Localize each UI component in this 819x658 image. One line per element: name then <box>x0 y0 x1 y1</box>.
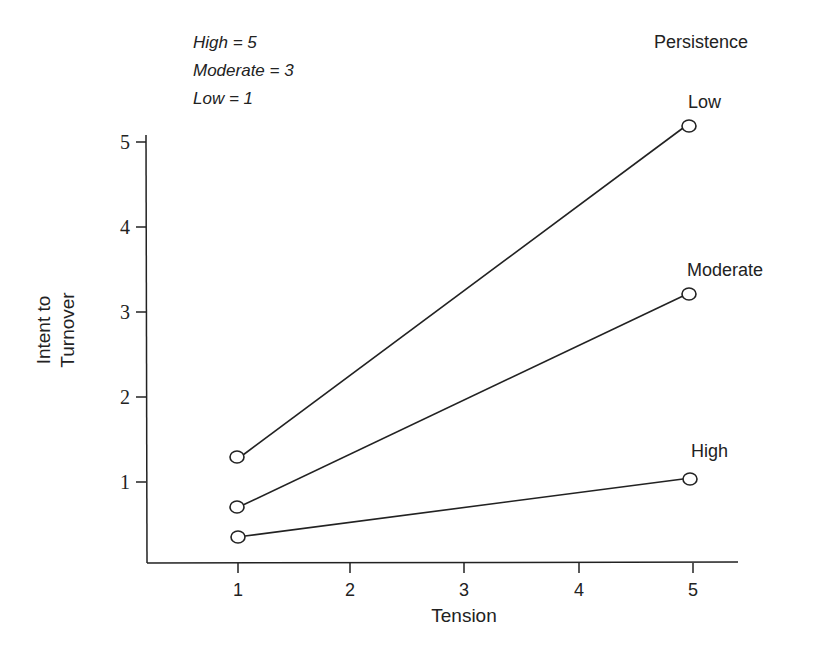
y-tick-label-5: 5 <box>120 131 130 153</box>
x-tick-label-5: 5 <box>688 580 698 600</box>
x-tick-label-1: 1 <box>233 580 243 600</box>
key-moderate: Moderate = 3 <box>193 61 294 80</box>
legend-title: Persistence <box>654 32 748 52</box>
y-tick-label-4: 4 <box>120 216 130 238</box>
x-tick-label-2: 2 <box>345 580 355 600</box>
x-axis-label: Tension <box>431 605 497 626</box>
key-high: High = 5 <box>193 33 257 52</box>
marker-moderate-5 <box>682 288 696 300</box>
x-tick-label-4: 4 <box>574 580 584 600</box>
y-tick-label-1: 1 <box>120 471 130 493</box>
y-axis-label-line1: Intent to <box>33 296 54 365</box>
x-axis <box>147 562 738 563</box>
series-line-low <box>243 128 683 455</box>
marker-low-1 <box>230 451 244 463</box>
key-low: Low = 1 <box>193 89 253 108</box>
series-label-moderate: Moderate <box>687 260 763 280</box>
marker-high-5 <box>683 473 697 485</box>
chart: High = 5 Moderate = 3 Low = 1 Persistenc… <box>0 0 819 658</box>
x-tick-label-3: 3 <box>459 580 469 600</box>
series-label-low: Low <box>688 92 722 112</box>
y-axis-label-line2: Turnover <box>57 292 78 368</box>
series-label-high: High <box>691 441 728 461</box>
x-ticks <box>238 563 693 573</box>
marker-high-1 <box>231 531 245 543</box>
marker-moderate-1 <box>230 501 244 513</box>
y-axis <box>146 135 147 563</box>
marker-low-5 <box>682 120 696 132</box>
y-ticks <box>136 142 146 482</box>
y-tick-label-3: 3 <box>120 301 130 323</box>
y-tick-label-2: 2 <box>120 386 130 408</box>
series-line-moderate <box>243 296 683 505</box>
series-line-high <box>245 479 683 536</box>
